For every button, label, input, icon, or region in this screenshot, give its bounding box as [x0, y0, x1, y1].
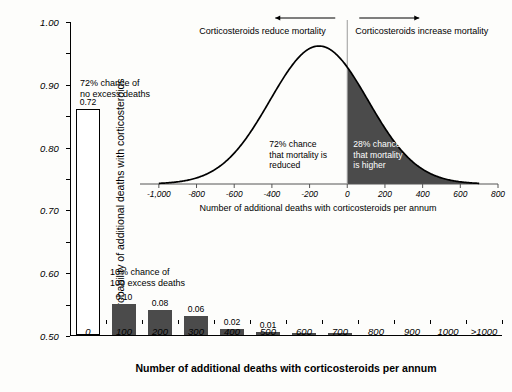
x-axis-ticks: 01002003004005006007008009001000>1000	[70, 320, 502, 340]
y-tick: 0.80	[66, 85, 70, 86]
inset-curve-svg	[132, 6, 504, 218]
x-tick-label-800: 800	[368, 326, 384, 337]
inset-x-tick-label: 0	[345, 189, 350, 199]
y-tick-label: 0.90	[40, 79, 59, 90]
x-tick-label->1000: >1000	[471, 326, 498, 337]
x-axis-title: Number of additional deaths with cortico…	[70, 362, 502, 374]
y-tick: 0.90	[66, 53, 70, 54]
inset-distribution-chart: -1,000-800-600-400-2000200400600800 Cort…	[132, 6, 504, 218]
x-tick	[250, 320, 251, 324]
x-tick	[286, 320, 287, 324]
y-tick-label: 0.60	[40, 268, 59, 279]
bar-value-label: 0.10	[116, 292, 133, 302]
y-tick-label: 1.00	[40, 17, 59, 28]
x-tick	[502, 320, 503, 324]
x-tick	[358, 320, 359, 324]
x-tick-label-300: 300	[188, 326, 204, 337]
y-tick: 0.50	[66, 179, 70, 180]
x-tick-label-900: 900	[404, 326, 420, 337]
x-tick	[178, 320, 179, 324]
y-tick: 0.10	[66, 305, 70, 306]
inset-x-axis-title: Number of additional deaths with cortico…	[132, 203, 504, 213]
bar-value-label: 0.08	[152, 298, 169, 308]
y-tick-label: 0.50	[40, 331, 59, 342]
y-tick: 0.70	[66, 116, 70, 117]
inset-header-increase: Corticosteroids increase mortality	[355, 26, 488, 36]
inset-header-reduce: Corticosteroids reduce mortality	[199, 26, 326, 36]
x-tick	[214, 320, 215, 324]
x-tick-label-100: 100	[116, 326, 132, 337]
arrow-left-head	[275, 15, 280, 20]
x-tick-label-0: 0	[85, 326, 90, 337]
y-tick: 0.30	[66, 242, 70, 243]
x-tick	[322, 320, 323, 324]
chart-figure: Probability of additional deaths with co…	[0, 0, 512, 392]
inset-x-tick-label: -800	[188, 189, 205, 199]
annotation-100-excess-deaths: 10% chance of 100 excess deaths	[110, 267, 185, 290]
y-tick-label: 0.70	[40, 205, 59, 216]
x-tick-label-500: 500	[260, 326, 276, 337]
inset-x-tick-label: -400	[264, 189, 281, 199]
inset-x-tick-label: -200	[301, 189, 318, 199]
x-tick-label-600: 600	[296, 326, 312, 337]
arrow-right-head	[414, 15, 419, 20]
inset-x-tick-label: 600	[453, 189, 467, 199]
y-tick-label: 0.80	[40, 142, 59, 153]
x-tick-label-200: 200	[152, 326, 168, 337]
y-tick: 1.00	[66, 22, 70, 23]
x-tick-label-700: 700	[332, 326, 348, 337]
inset-x-tick-label: 400	[416, 189, 430, 199]
x-tick	[70, 320, 71, 324]
x-tick	[466, 320, 467, 324]
inset-annotation-28-percent: 28% chance that mortality is higher	[353, 139, 402, 171]
x-tick-label-1000: 1000	[437, 326, 458, 337]
y-tick: 0.60	[66, 148, 70, 149]
y-tick: 0.40	[66, 210, 70, 211]
bar-0	[76, 109, 100, 335]
x-tick	[430, 320, 431, 324]
bar-value-label: 0.06	[188, 304, 205, 314]
inset-x-tick-label: 800	[491, 189, 505, 199]
y-tick: 0.20	[66, 273, 70, 274]
inset-x-tick-label: -1,000	[147, 189, 171, 199]
x-tick	[106, 320, 107, 324]
x-tick-label-400: 400	[224, 326, 240, 337]
y-axis-line	[70, 22, 71, 336]
inset-annotation-72-percent: 72% chance that mortality is reduced	[269, 139, 327, 171]
x-tick	[394, 320, 395, 324]
x-tick	[142, 320, 143, 324]
inset-x-tick-label: 200	[378, 189, 392, 199]
inset-x-tick-label: -600	[226, 189, 243, 199]
